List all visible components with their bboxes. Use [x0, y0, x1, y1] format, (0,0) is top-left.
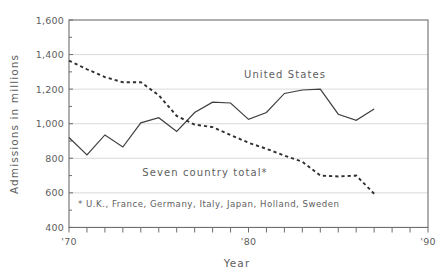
- y-tick-1000: 1,000: [36, 118, 64, 129]
- x-axis-ticks: [69, 227, 428, 232]
- x-axis-title: Year: [223, 257, 251, 269]
- line-chart: 1,600 1,400 1,200 1,000 800 600 400 '70 …: [0, 0, 443, 276]
- series-line-united-states: [69, 89, 374, 155]
- y-axis-ticks: [69, 20, 73, 227]
- x-tick-90: '90: [420, 236, 435, 247]
- x-tick-70: '70: [61, 236, 76, 247]
- x-axis-tick-labels: '70 '80 '90: [61, 236, 435, 247]
- y-tick-1400: 1,400: [36, 49, 64, 60]
- chart-container: 1,600 1,400 1,200 1,000 800 600 400 '70 …: [0, 0, 443, 276]
- y-tick-1600: 1,600: [36, 15, 64, 26]
- x-tick-80: '80: [241, 236, 256, 247]
- seven-country-total-label: Seven country total*: [142, 167, 267, 178]
- y-tick-400: 400: [45, 222, 64, 233]
- united-states-label: United States: [244, 69, 326, 80]
- y-axis-title: Admissions in millions: [8, 54, 20, 194]
- y-tick-1200: 1,200: [36, 84, 64, 95]
- y-tick-600: 600: [45, 187, 64, 198]
- footnote-text: * U.K., France, Germany, Italy, Japan, H…: [78, 199, 340, 209]
- y-axis-tick-labels: 1,600 1,400 1,200 1,000 800 600 400: [36, 15, 64, 234]
- y-tick-800: 800: [45, 153, 64, 164]
